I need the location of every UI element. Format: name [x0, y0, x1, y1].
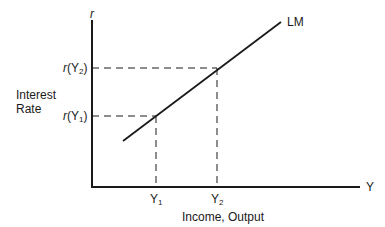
- tick-label-y1: Y1: [150, 193, 162, 207]
- tick-label-y2: Y2: [211, 193, 223, 207]
- lm-diagram-canvas: [0, 0, 385, 227]
- x-axis-symbol: Y: [366, 181, 374, 193]
- x-axis-label: Income, Output: [182, 211, 264, 223]
- y-axis-label-line1: Interest: [16, 89, 56, 101]
- tick-label-r-y2: r(Y2): [63, 62, 87, 76]
- y-axis-label-line2: Rate: [16, 103, 41, 115]
- lm-curve-label: LM: [287, 16, 304, 28]
- tick-label-r-y1: r(Y1): [63, 110, 87, 124]
- lm-curve: [123, 22, 281, 141]
- y-axis-symbol: r: [90, 8, 94, 20]
